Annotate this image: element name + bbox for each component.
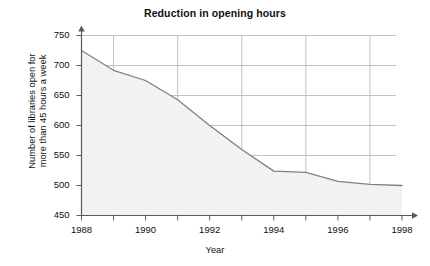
x-axis-arrow-icon <box>412 212 418 218</box>
y-axis-tick-label: 700 <box>40 59 70 70</box>
y-axis-tick-label: 550 <box>40 149 70 160</box>
x-axis-tick-label: 1992 <box>190 224 230 235</box>
y-axis-tick-label: 450 <box>40 209 70 220</box>
chart-container: Reduction in opening hours Number of lib… <box>0 0 430 266</box>
x-axis-tick-label: 1990 <box>126 224 166 235</box>
x-axis-tick-label: 1994 <box>254 224 294 235</box>
x-axis-tick-label: 1988 <box>62 224 102 235</box>
y-axis-tick-label: 750 <box>40 29 70 40</box>
y-axis-arrow-icon <box>78 26 84 32</box>
x-axis-tick-label: 1998 <box>382 224 422 235</box>
y-axis-tick-label: 650 <box>40 89 70 100</box>
y-axis-tick-label: 500 <box>40 179 70 190</box>
x-axis-tick-label: 1996 <box>318 224 358 235</box>
y-axis-tick-label: 600 <box>40 119 70 130</box>
